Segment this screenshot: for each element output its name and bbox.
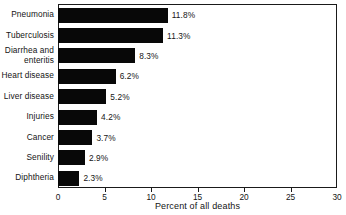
bar-value-label: 11.3% (167, 31, 190, 41)
category-label: Diphtheria (0, 173, 54, 182)
bar-row: Tuberculosis11.3% (0, 25, 346, 45)
bar-value-label: 4.2% (101, 112, 120, 122)
category-label: Cancer (0, 133, 54, 142)
bar-value-label: 5.2% (110, 92, 129, 102)
bar-value-label: 11.8% (172, 10, 195, 20)
bar-row: Injuries4.2% (0, 107, 346, 127)
category-label: Tuberculosis (0, 31, 54, 40)
bar (58, 8, 168, 23)
bar (58, 48, 135, 63)
bar (58, 130, 92, 145)
x-axis-title: Percent of all deaths (58, 201, 337, 211)
category-label: Diarrhea and enteritis (0, 46, 54, 65)
bar-value-label: 6.2% (120, 71, 139, 81)
bar (58, 69, 116, 84)
category-label: Pneumonia (0, 10, 54, 19)
bar-value-label: 2.3% (83, 173, 102, 183)
category-label: Liver disease (0, 92, 54, 101)
bar (58, 110, 97, 125)
bar-row: Diarrhea and enteritis8.3% (0, 46, 346, 66)
bar-row: Pneumonia11.8% (0, 5, 346, 25)
bar (58, 28, 163, 43)
bar-value-label: 3.7% (96, 133, 115, 143)
bar (58, 89, 106, 104)
bar-value-label: 8.3% (139, 51, 158, 61)
bar (58, 150, 85, 165)
bar-chart: Pneumonia11.8%Tuberculosis11.3%Diarrhea … (0, 0, 346, 215)
category-label: Heart disease (0, 71, 54, 80)
bar-value-label: 2.9% (89, 153, 108, 163)
bar-row: Senility2.9% (0, 148, 346, 168)
category-label: Injuries (0, 112, 54, 121)
category-label: Senility (0, 153, 54, 162)
bar-row: Diphtheria2.3% (0, 168, 346, 188)
bar-row: Heart disease6.2% (0, 66, 346, 86)
bar-row: Liver disease5.2% (0, 87, 346, 107)
bar-row: Cancer3.7% (0, 127, 346, 147)
bar (58, 171, 79, 186)
